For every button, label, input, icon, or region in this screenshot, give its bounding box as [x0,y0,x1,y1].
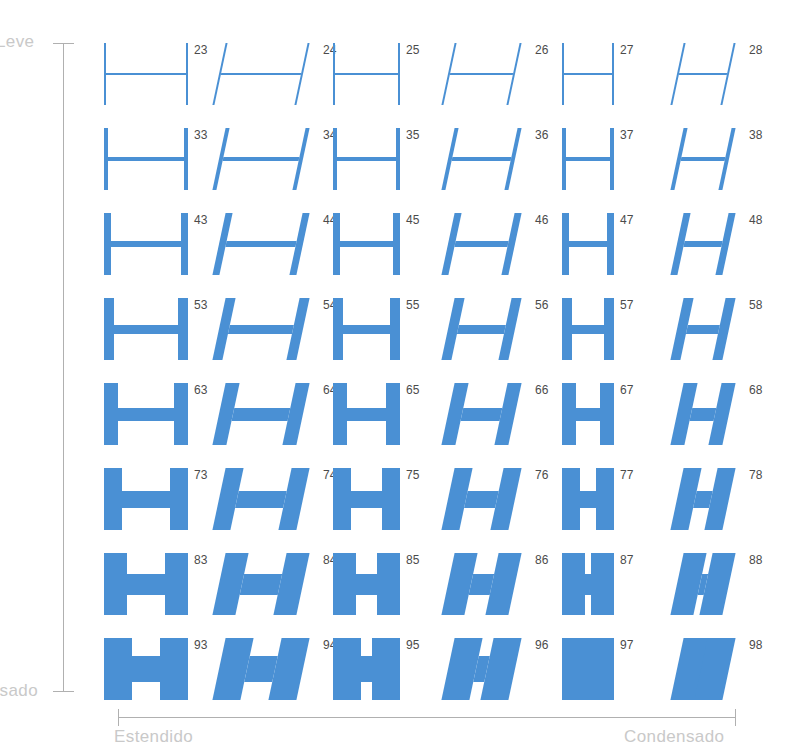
glyph-right-stem [596,468,614,530]
specimen-cell[interactable]: 94 [219,628,303,710]
glyph-h [212,128,309,190]
specimen-row: 636465666768 [104,373,776,455]
glyph-right-stem [604,298,614,360]
glyph-h [333,213,400,275]
glyph-crossbar [351,491,382,508]
specimen-cell[interactable]: 98 [677,628,761,710]
specimen-number: 38 [749,128,762,142]
glyph-crossbar [337,157,396,161]
specimen-cell[interactable]: 64 [219,373,303,455]
specimen-cell[interactable]: 47 [562,203,646,285]
specimen-cell[interactable]: 45 [333,203,417,285]
specimen-number: 66 [535,383,548,397]
specimen-cell[interactable]: 97 [562,628,646,710]
glyph-right-stem [165,553,188,615]
specimen-cell[interactable]: 27 [562,33,646,115]
glyph-h [212,43,309,105]
specimen-cell[interactable]: 93 [104,628,188,710]
specimen-cell[interactable]: 77 [562,458,646,540]
specimen-cell[interactable]: 38 [677,118,761,200]
glyph-crossbar [683,241,722,247]
specimen-number: 53 [194,298,207,312]
specimen-cell[interactable]: 87 [562,543,646,625]
specimen-cell[interactable]: 96 [448,628,532,710]
glyph-crossbar [580,491,596,508]
glyph-h [670,298,735,360]
specimen-cell[interactable]: 88 [677,543,761,625]
specimen-number: 57 [620,298,633,312]
specimen-cell[interactable]: 68 [677,373,761,455]
glyph-h [333,553,400,615]
specimen-cell[interactable]: 23 [104,33,188,115]
glyph-h [333,468,400,530]
specimen-number: 27 [620,43,633,57]
glyph-h [212,383,309,445]
glyph-h [670,468,735,530]
specimen-cell[interactable]: 76 [448,458,532,540]
specimen-number: 76 [535,468,548,482]
glyph-h [104,298,188,360]
specimen-cell[interactable]: 65 [333,373,417,455]
glyph-left-stem [333,383,347,445]
glyph-h [104,213,188,275]
glyph-right-stem [398,43,400,105]
glyph-h [670,553,735,615]
specimen-cell[interactable]: 73 [104,458,188,540]
specimen-cell[interactable]: 44 [219,203,303,285]
glyph-left-stem [333,298,343,360]
horizontal-axis-line [118,717,735,718]
specimen-cell[interactable]: 33 [104,118,188,200]
specimen-number: 35 [406,128,419,142]
specimen-cell[interactable]: 46 [448,203,532,285]
specimen-cell[interactable]: 48 [677,203,761,285]
specimen-cell[interactable]: 26 [448,33,532,115]
specimen-cell[interactable]: 25 [333,33,417,115]
specimen-cell[interactable]: 78 [677,458,761,540]
specimen-cell[interactable]: 85 [333,543,417,625]
specimen-cell[interactable]: 36 [448,118,532,200]
specimen-number: 47 [620,213,633,227]
glyph-h [441,43,521,105]
specimen-cell[interactable]: 56 [448,288,532,370]
specimen-cell[interactable]: 84 [219,543,303,625]
specimen-cell[interactable]: 34 [219,118,303,200]
glyph-left-stem [562,553,585,615]
specimen-cell[interactable]: 75 [333,458,417,540]
specimen-cell[interactable]: 95 [333,628,417,710]
glyph-right-stem [396,128,400,190]
glyph-left-stem [333,468,351,530]
specimen-cell[interactable]: 83 [104,543,188,625]
specimen-number: 55 [406,298,419,312]
specimen-cell[interactable]: 24 [219,33,303,115]
specimen-cell[interactable]: 58 [677,288,761,370]
glyph-h [333,128,400,190]
specimen-cell[interactable]: 43 [104,203,188,285]
glyph-right-stem [485,553,521,615]
glyph-right-stem [184,128,188,190]
specimen-cell[interactable]: 63 [104,373,188,455]
specimen-cell[interactable]: 86 [448,543,532,625]
glyph-left-stem [333,638,361,700]
glyph-right-stem [612,43,614,105]
glyph-crossbar [461,408,503,421]
glyph-h [212,298,309,360]
specimen-cell[interactable]: 55 [333,288,417,370]
specimen-row: 737475767778 [104,458,776,540]
glyph-h [212,638,309,700]
specimen-cell[interactable]: 74 [219,458,303,540]
specimen-number: 63 [194,383,207,397]
glyph-right-stem [393,213,400,275]
glyph-crossbar [452,157,512,161]
glyph-right-stem [699,553,735,615]
specimen-cell[interactable]: 57 [562,288,646,370]
specimen-cell[interactable]: 67 [562,373,646,455]
glyph-crossbar [127,574,165,595]
specimen-cell[interactable]: 66 [448,373,532,455]
glyph-left-stem [562,468,580,530]
specimen-cell[interactable]: 35 [333,118,417,200]
specimen-cell[interactable]: 53 [104,288,188,370]
specimen-cell[interactable]: 37 [562,118,646,200]
specimen-cell[interactable]: 54 [219,288,303,370]
specimen-cell[interactable]: 28 [677,33,761,115]
glyph-crossbar [686,325,720,334]
